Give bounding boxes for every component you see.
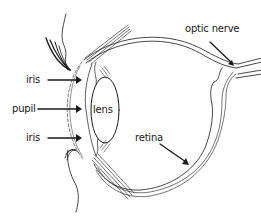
- label-iris-top: iris: [26, 75, 40, 85]
- lower-muscle: [92, 154, 134, 199]
- label-lens: lens: [93, 105, 113, 115]
- label-optic-nerve: optic nerve: [185, 24, 239, 34]
- label-retina: retina: [135, 133, 163, 143]
- eyeball-wall: [84, 37, 261, 196]
- label-pupil: pupil: [12, 104, 36, 114]
- lower-eyelid: [65, 149, 78, 212]
- upper-eyelid: [46, 14, 70, 70]
- label-iris-bottom: iris: [26, 133, 40, 143]
